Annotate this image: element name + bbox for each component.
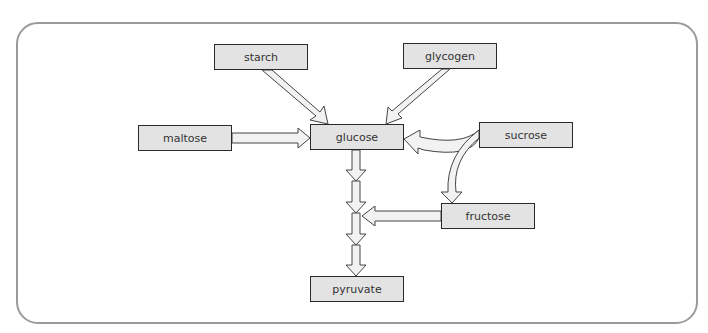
node-label: pyruvate xyxy=(332,283,381,296)
node-glycogen: glycogen xyxy=(403,43,497,69)
node-glucose: glucose xyxy=(310,124,404,150)
arrow-glucose-step1 xyxy=(346,150,366,181)
node-starch: starch xyxy=(214,44,308,70)
node-maltose: maltose xyxy=(138,125,232,151)
arrow-maltose-glucose xyxy=(232,128,310,148)
arrow-glycogen-glucose xyxy=(386,69,450,124)
arrow-glucose-step2 xyxy=(346,181,366,213)
arrow-glucose-step3 xyxy=(346,213,366,245)
node-label: sucrose xyxy=(505,129,547,142)
node-label: glycogen xyxy=(425,50,475,63)
node-fructose: fructose xyxy=(441,203,535,229)
node-pyruvate: pyruvate xyxy=(310,276,404,302)
node-label: fructose xyxy=(466,210,511,223)
arrow-fructose-pathway xyxy=(362,206,441,226)
node-sucrose: sucrose xyxy=(479,122,573,148)
arrow-starch-glucose xyxy=(262,70,328,124)
node-label: glucose xyxy=(336,131,378,144)
node-label: starch xyxy=(244,51,278,64)
arrow-glucose-step4 xyxy=(346,245,366,276)
node-label: maltose xyxy=(163,132,207,145)
